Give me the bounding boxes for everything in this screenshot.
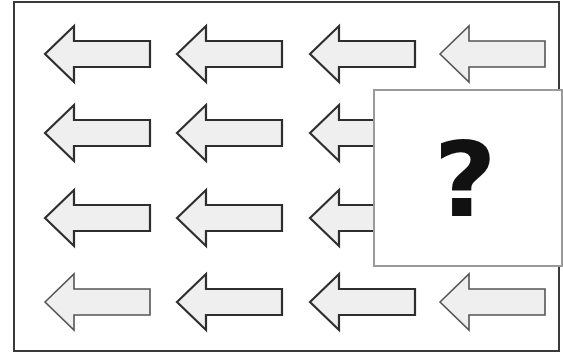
arrow-left-icon — [310, 26, 415, 82]
question-box: ? — [373, 89, 563, 267]
arrow-left-icon — [177, 190, 282, 246]
arrow-left-icon — [45, 274, 150, 330]
arrow-left-icon — [310, 274, 415, 330]
arrow-left-icon — [45, 190, 150, 246]
arrow-left-icon — [440, 26, 545, 82]
arrow-left-icon — [45, 26, 150, 82]
arrow-left-icon — [440, 274, 545, 330]
arrow-left-icon — [177, 274, 282, 330]
question-mark-icon: ? — [433, 128, 496, 232]
arrow-left-icon — [177, 26, 282, 82]
arrow-left-icon — [45, 105, 150, 161]
arrow-left-icon — [177, 105, 282, 161]
